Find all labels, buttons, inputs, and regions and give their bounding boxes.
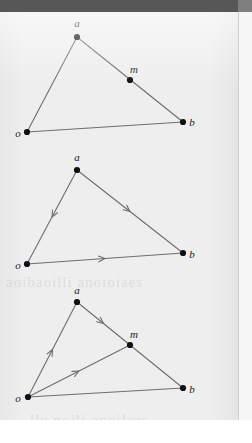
- label-panel-3-o: o: [15, 392, 21, 404]
- figure-root: aoibaoilli anoioiaes llu noili onoilaes …: [0, 0, 252, 443]
- point-panel-2-b: [180, 250, 186, 256]
- point-panel-2-a: [74, 167, 80, 173]
- label-panel-1-m: m: [130, 63, 138, 75]
- point-panel-1-o: [24, 129, 30, 135]
- label-panel-1-a: a: [74, 17, 80, 29]
- triangle-plain: [24, 34, 186, 135]
- segment-ob: [27, 122, 183, 132]
- triangle-with-midpoint-vectors: [25, 299, 186, 400]
- point-panel-1-a: [74, 34, 80, 40]
- point-panel-3-b: [180, 385, 186, 391]
- scanned-page: aoibaoilli anoioiaes llu noili onoilaes …: [0, 12, 239, 422]
- segment-oa: [27, 37, 77, 132]
- label-panel-1-b: b: [189, 116, 195, 128]
- label-panel-2-b: b: [189, 248, 195, 260]
- label-panel-3-b: b: [189, 383, 195, 395]
- scan-top-bar-right: [238, 0, 252, 12]
- scan-right-margin: [239, 12, 252, 420]
- label-panel-3-a: a: [74, 284, 80, 296]
- label-panel-1-o: o: [15, 127, 21, 139]
- scan-bottom-margin: [0, 420, 252, 443]
- point-panel-3-m: [127, 342, 133, 348]
- diagram-canvas: [0, 12, 238, 420]
- scan-top-bar: [0, 0, 238, 12]
- label-panel-2-o: o: [15, 259, 21, 271]
- label-panel-2-a: a: [74, 151, 80, 163]
- point-panel-3-a: [74, 299, 80, 305]
- label-panel-3-m: m: [130, 328, 138, 340]
- segment-m-to-b: [130, 345, 183, 388]
- triangle-directed: [24, 167, 186, 267]
- point-panel-1-m: [127, 77, 133, 83]
- point-panel-1-b: [180, 119, 186, 125]
- point-panel-2-o: [24, 261, 30, 267]
- segment-o-to-b: [28, 388, 183, 397]
- point-panel-3-o: [25, 394, 31, 400]
